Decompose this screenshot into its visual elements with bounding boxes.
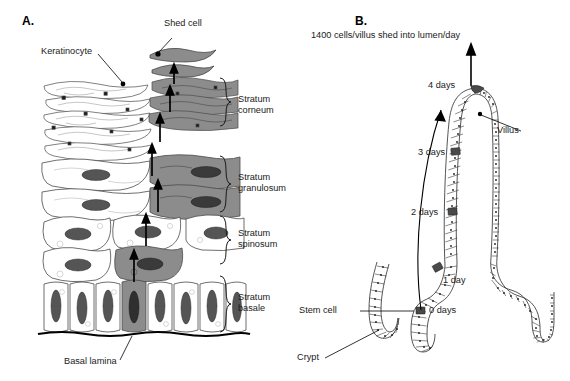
label-0-days: 0 days bbox=[429, 305, 456, 316]
panel-b-drawing bbox=[285, 0, 570, 381]
panel-a-epidermis: A. bbox=[0, 0, 285, 381]
stratum-basale-line1: Stratum bbox=[238, 292, 270, 302]
label-villus: Villus bbox=[497, 125, 519, 136]
label-2-days: 2 days bbox=[411, 207, 438, 218]
epithelial-cell-ticks bbox=[369, 88, 554, 352]
label-stem-cell: Stem cell bbox=[299, 305, 337, 316]
stratum-corneum-cells bbox=[44, 77, 238, 160]
caption-shed-rate: 1400 cells/villus shed into lumen/day bbox=[311, 30, 460, 41]
stratum-granulosum-line1: Stratum bbox=[238, 172, 270, 182]
stratum-spinosum-line2: spinosum bbox=[238, 239, 277, 249]
label-3-days: 3 days bbox=[418, 147, 445, 158]
stratum-basale-line2: basale bbox=[238, 303, 265, 313]
marker-4-days bbox=[471, 85, 484, 93]
epithelium-outlines bbox=[369, 88, 554, 352]
stratum-corneum-line1: Stratum bbox=[238, 94, 270, 104]
stratum-corneum-line2: corneum bbox=[238, 105, 274, 115]
label-basal-lamina: Basal lamina bbox=[64, 356, 117, 367]
stratum-spinosum-line1: Stratum bbox=[238, 228, 270, 238]
shed-arrow bbox=[467, 44, 475, 86]
stratum-granulosum-cells bbox=[42, 155, 240, 221]
label-shed-cell: Shed cell bbox=[164, 18, 202, 29]
panel-b-villus: B. bbox=[285, 0, 570, 381]
label-crypt: Crypt bbox=[297, 352, 319, 363]
label-4-days: 4 days bbox=[428, 80, 455, 91]
marker-1-day bbox=[432, 262, 443, 272]
stratum-spinosum-cells bbox=[43, 215, 244, 282]
label-keratinocyte: Keratinocyte bbox=[41, 46, 92, 57]
marker-3-days bbox=[451, 148, 461, 156]
epithelial-nuclei bbox=[374, 90, 553, 349]
stratum-granulosum-line2: granulosum bbox=[238, 183, 286, 193]
label-1-day: 1 day bbox=[443, 275, 465, 286]
stratum-basale-cells bbox=[44, 280, 246, 332]
basal-lamina-line bbox=[38, 332, 250, 336]
marker-2-days bbox=[448, 208, 457, 216]
